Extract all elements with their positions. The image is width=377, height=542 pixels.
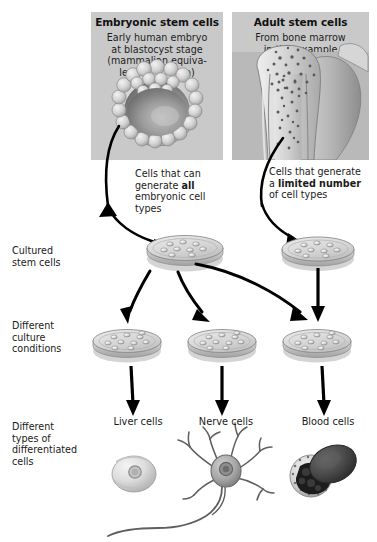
callout-line: types [135,203,161,214]
hepatocyte-illustration [112,456,156,492]
arrow-cultured-to-dish1 [120,271,150,324]
dish-cultured-embryonic [147,236,223,272]
arrow-adult-callout-to-dish [262,204,303,246]
row-label-line: Cultured [12,245,90,257]
blastocyst-illustration [91,12,223,160]
row-label-line: cells [12,456,94,468]
row-label-line: stem cells [12,257,90,269]
panel-adult-stem-cells: Adult stem cells From bone marrow in thi… [232,12,369,160]
arrow-dish3-to-blood [317,366,331,416]
arrow-adult-cultured-to-dish3 [311,268,325,322]
dish-culture-2 [188,330,256,363]
row-label-line: culture [12,332,90,344]
row-label-differentiated-cells: Different types of differentiated cells [12,421,94,467]
dish-culture-1 [93,330,161,363]
row-label-line: Different [12,320,90,332]
callout-line: of cell types [269,189,327,200]
neuron-illustration [108,423,274,536]
row-label-culture-conditions: Different culture conditions [12,320,90,355]
label-liver-cells: Liver cells [96,416,180,427]
dish-cultured-adult [282,237,354,271]
callout-embryonic-potency: Cells that can generate all embryonic ce… [135,168,213,214]
callout-line: embryonic cell [135,191,205,202]
row-label-cultured-stem-cells: Cultured stem cells [12,245,90,268]
arrow-embryo-callout-to-dish [112,214,170,252]
callout-emphasis: all [182,180,195,191]
arrow-dish2-to-nerve [215,366,229,416]
arrow-cultured-to-dish3 [196,264,308,321]
callout-emphasis: limited number [278,178,361,189]
row-label-line: differentiated [12,444,94,456]
callout-line: generate [135,180,182,191]
dish-culture-3 [283,330,351,363]
blood-cells-illustration [290,438,362,497]
label-blood-cells: Blood cells [286,416,370,427]
diagram-canvas: Embryonic stem cells Early human embryo … [0,0,377,542]
arrow-cultured-to-dish2 [178,272,210,322]
callout-line: Cells that [269,166,314,177]
row-label-line: types of [12,433,94,445]
callout-adult-potency: Cells that generate a limited number of … [269,166,365,201]
row-label-line: Different [12,421,94,433]
bone-marrow-illustration [232,12,369,160]
label-nerve-cells: Nerve cells [184,416,268,427]
panel-embryonic-stem-cells: Embryonic stem cells Early human embryo … [91,12,223,160]
callout-line: Cells that can [135,168,201,179]
row-label-line: conditions [12,343,90,355]
arrow-dish1-to-liver [126,366,140,416]
